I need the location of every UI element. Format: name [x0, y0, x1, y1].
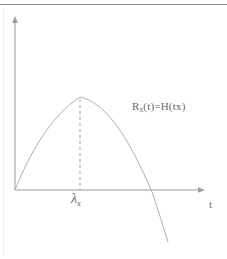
y-axis-arrowhead [12, 16, 18, 23]
xaxis-tick-label-lambda-x: λx [71, 192, 81, 207]
plot-area [0, 0, 227, 259]
figure-root: Rx(t)=H(tx) λx t [0, 0, 227, 259]
xaxis-name-label: t [209, 199, 212, 210]
curve-equation-rest: (t)=H(tx) [143, 100, 185, 112]
curve-equation-main: R [132, 100, 140, 112]
curve-equation-label: Rx(t)=H(tx) [132, 101, 186, 114]
function-curve [15, 97, 168, 242]
lambda-subscript: x [77, 198, 81, 208]
x-axis-arrowhead [198, 187, 205, 193]
